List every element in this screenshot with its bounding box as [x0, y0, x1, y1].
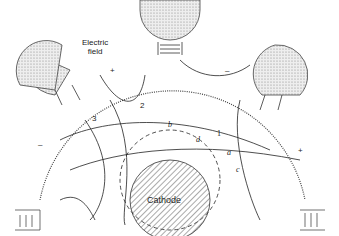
line-label-1: 1: [217, 129, 221, 138]
line-label-3: 3: [92, 114, 96, 123]
magnetron-diagram: Electricfield + – – + 2 3 1 a b c d Cath…: [0, 0, 339, 236]
plus-sign-right: +: [298, 146, 303, 155]
point-a: a: [227, 148, 231, 157]
cavity-right: [253, 45, 307, 95]
cavity-top: [140, 0, 200, 40]
point-b: b: [168, 120, 172, 129]
minus-sign-left: –: [38, 140, 42, 149]
point-d: d: [196, 135, 200, 144]
cathode-label: Cathode: [147, 196, 181, 205]
point-c: c: [236, 165, 240, 174]
plus-sign-top-left: +: [110, 66, 115, 75]
minus-sign-top-right: –: [225, 66, 229, 75]
line-label-2: 2: [140, 101, 144, 110]
electric-field-label: Electricfield: [82, 38, 108, 56]
